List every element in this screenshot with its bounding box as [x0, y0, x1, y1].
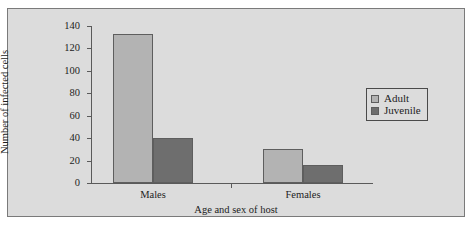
- legend-label-adult: Adult: [384, 93, 409, 104]
- x-axis-title: Age and sex of host: [8, 205, 464, 216]
- y-tick-label-60: 60: [70, 110, 81, 121]
- bar-males-adult: [113, 34, 153, 183]
- bar-males-juvenile: [153, 138, 193, 183]
- legend-swatch-adult-icon: [371, 95, 379, 103]
- legend-swatch-juvenile-icon: [371, 107, 379, 115]
- y-tick-100: 100: [87, 71, 91, 72]
- x-category-label-males: Males: [140, 190, 166, 201]
- y-tick-label-20: 20: [70, 155, 81, 166]
- x-axis-line: [91, 183, 373, 184]
- y-tick-40: 40: [87, 138, 91, 139]
- chart-legend: Adult Juvenile: [366, 88, 428, 121]
- y-tick-label-80: 80: [70, 88, 81, 99]
- bar-females-adult: [263, 149, 303, 183]
- x-tick-mid: [231, 183, 232, 188]
- y-tick-80: 80: [87, 93, 91, 94]
- bar-females-juvenile: [303, 165, 343, 183]
- y-tick-0: 0: [87, 183, 91, 184]
- y-tick-label-120: 120: [64, 43, 80, 54]
- plot-area: 0 20 40 60 80 100 120 140: [91, 26, 371, 183]
- y-tick-label-140: 140: [64, 21, 80, 32]
- y-tick-60: 60: [87, 116, 91, 117]
- chart-figure: Number of infected cells 0 20 40 60 80 1…: [7, 8, 465, 217]
- y-tick-label-100: 100: [64, 66, 80, 77]
- y-tick-label-0: 0: [75, 178, 80, 189]
- legend-item-juvenile: Juvenile: [371, 105, 421, 116]
- y-tick-label-40: 40: [70, 133, 81, 144]
- y-axis-title: Number of infected cells: [0, 22, 11, 182]
- legend-item-adult: Adult: [371, 93, 421, 104]
- x-category-label-females: Females: [286, 190, 321, 201]
- y-tick-20: 20: [87, 161, 91, 162]
- y-tick-140: 140: [87, 26, 91, 27]
- legend-label-juvenile: Juvenile: [384, 105, 421, 116]
- y-tick-120: 120: [87, 48, 91, 49]
